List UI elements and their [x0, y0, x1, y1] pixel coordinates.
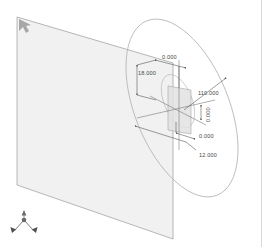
triad-axis-x-icon	[10, 227, 16, 233]
dim-lower-zero-text: 0.000	[199, 134, 214, 140]
triad-axis-y-icon	[32, 227, 38, 233]
triad-axis-z-icon	[22, 210, 27, 216]
axis-triad[interactable]	[10, 210, 37, 233]
dim-center-zero-text: 0.000	[206, 107, 212, 122]
dim-lower-12-text: 12.000	[199, 153, 217, 159]
cad-viewport[interactable]: 0.000 18.000 110.000 0.000 0.000 12.000	[0, 0, 262, 247]
dim-top-zero-text: 0.000	[162, 55, 177, 61]
datum-plane[interactable]	[17, 17, 173, 239]
dim-left-18-text: 18.000	[138, 71, 156, 77]
scene-canvas[interactable]	[0, 0, 262, 247]
dim-right-110-text: 110.000	[198, 91, 219, 97]
